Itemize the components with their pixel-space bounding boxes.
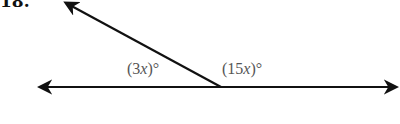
coefficient: 15: [227, 60, 243, 77]
variable: x: [243, 60, 250, 77]
angle-diagram: [0, 0, 400, 124]
angle-label-left: (3x)°: [127, 60, 159, 78]
angle-label-right: (15x)°: [222, 60, 262, 78]
variable: x: [140, 60, 147, 77]
